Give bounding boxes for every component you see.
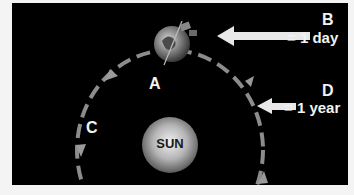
label-b-value: = 1 day (287, 30, 338, 45)
label-d: D (322, 83, 334, 99)
label-b: B (322, 12, 334, 28)
label-sun: SUN (152, 137, 188, 150)
label-a: A (149, 76, 161, 92)
label-d-value: = 1 year (284, 100, 340, 115)
label-c: C (86, 120, 98, 136)
earth-icon (154, 21, 197, 65)
diagram-panel: A B = 1 day C D = 1 year SUN (12, 3, 348, 185)
